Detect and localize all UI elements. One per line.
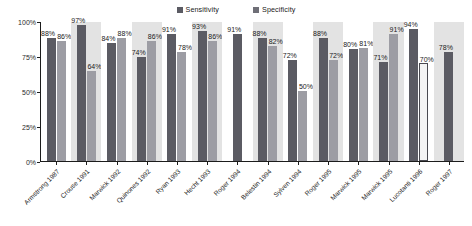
x-label-cell: Quinones 1992 [132, 166, 162, 224]
bar-specificity: 86% [208, 41, 217, 161]
bar-specificity: 78% [177, 52, 186, 161]
bar-group-bars: 88%82% [253, 22, 283, 161]
y-tick-label: 25% [6, 124, 36, 131]
bar-value-label: 71% [373, 54, 387, 61]
bar-specificity: 72% [329, 60, 338, 161]
bar-specificity: 50% [298, 91, 307, 161]
bar-specificity: 88% [117, 38, 126, 161]
sensitivity-specificity-bar-chart: Sensitivity Specificity 100%75%50%25%0% … [0, 0, 472, 226]
bar-group-bars: 88%72% [313, 22, 343, 161]
bar-value-label: 72% [283, 52, 297, 59]
bar-sensitivity: 93% [198, 31, 207, 161]
bar-group-bars: 72%50% [283, 22, 313, 161]
bar-specificity: 64% [87, 71, 96, 161]
legend-swatch-icon-specificity [253, 7, 259, 13]
bar-group: 84%88% [101, 22, 131, 161]
bar-group: 88%72% [313, 22, 343, 161]
bar-value-label: 88% [41, 30, 55, 37]
bar-group-bars: 91% [222, 22, 252, 161]
bar-value-label: 78% [178, 44, 192, 51]
legend-swatch-icon-sensitivity [177, 7, 183, 13]
bar-sensitivity: 91% [233, 34, 242, 161]
bar-value-label: 86% [208, 33, 222, 40]
bar-group-bars: 93%86% [192, 22, 222, 161]
bar-group: 72%50% [283, 22, 313, 161]
y-tick-mark [37, 57, 40, 58]
bar-group-bars: 84%88% [101, 22, 131, 161]
bar-value-label: 70% [420, 56, 434, 63]
legend-entry-sensitivity: Sensitivity [177, 6, 219, 13]
bar-value-label: 72% [329, 52, 343, 59]
bar-specificity: 86% [57, 41, 66, 161]
bar-value-label: 91% [227, 26, 241, 33]
bar-value-label: 88% [253, 30, 267, 37]
y-tick-mark [37, 22, 40, 23]
bar-value-label: 80% [343, 41, 357, 48]
bar-value-label: 50% [299, 83, 313, 90]
bar-value-label: 82% [269, 38, 283, 45]
bar-value-label: 86% [148, 33, 162, 40]
bar-value-label: 64% [87, 63, 101, 70]
legend-entry-specificity: Specificity [253, 6, 295, 13]
bar-value-label: 78% [439, 44, 453, 51]
plot-area: 100%75%50%25%0% 88%86%97%64%84%88%74%86%… [40, 22, 464, 162]
bar-sensitivity: 88% [47, 38, 56, 161]
bar-group-bars: 88%86% [41, 22, 71, 161]
bar-value-label: 94% [404, 21, 418, 28]
bar-specificity: 82% [268, 46, 277, 161]
bar-group: 91% [222, 22, 252, 161]
bar-value-label: 93% [192, 23, 206, 30]
bar-value-label: 97% [71, 17, 85, 24]
bar-group: 88%82% [253, 22, 283, 161]
y-tick-label: 75% [6, 54, 36, 61]
x-label-cell: Roger 1997 [434, 166, 464, 224]
bar-value-label: 86% [57, 33, 71, 40]
y-tick-label: 100% [6, 19, 36, 26]
y-tick-mark [37, 162, 40, 163]
bar-value-label: 84% [101, 35, 115, 42]
bar-group-bars: 80%81% [343, 22, 373, 161]
bar-groups: 88%86%97%64%84%88%74%86%91%78%93%86%91%8… [41, 22, 464, 161]
bar-value-label: 91% [162, 26, 176, 33]
legend-label-specificity: Specificity [262, 6, 295, 13]
bar-group: 80%81% [343, 22, 373, 161]
y-tick-mark [37, 127, 40, 128]
bar-value-label: 88% [313, 30, 327, 37]
y-tick-label: 0% [6, 159, 36, 166]
bar-specificity: 81% [359, 48, 368, 161]
bar-group: 93%86% [192, 22, 222, 161]
bar-group: 88%86% [41, 22, 71, 161]
x-axis-labels: Armstrong 1987Crouse 1991Marwick 1992Qui… [41, 166, 464, 224]
chart-legend: Sensitivity Specificity [0, 2, 472, 18]
y-tick-label: 50% [6, 89, 36, 96]
y-tick-mark [37, 92, 40, 93]
x-tick-label-text: Armstrong 1987 [23, 168, 61, 206]
bar-value-label: 88% [118, 30, 132, 37]
bar-specificity: 70% [419, 63, 428, 161]
bar-value-label: 91% [390, 26, 404, 33]
legend-label-sensitivity: Sensitivity [186, 6, 219, 13]
bar-value-label: 81% [359, 40, 373, 47]
bar-value-label: 74% [132, 49, 146, 56]
